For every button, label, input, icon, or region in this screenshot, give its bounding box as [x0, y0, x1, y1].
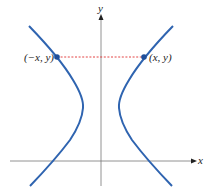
- x-axis-arrow-icon: [191, 159, 197, 164]
- y-axis-arrow-icon: [99, 14, 104, 20]
- hyperbola-plot: [0, 0, 209, 192]
- hyperbola-figure: y x (−x, y) (x, y): [0, 0, 209, 192]
- right-branch: [119, 26, 173, 186]
- y-axis-label: y: [98, 3, 103, 14]
- x-axis-label: x: [198, 155, 203, 166]
- left-branch: [29, 26, 83, 186]
- point-right-label: (x, y): [149, 52, 172, 63]
- point-right: [141, 54, 147, 60]
- point-left-label: (−x, y): [24, 52, 54, 63]
- point-left: [54, 54, 60, 60]
